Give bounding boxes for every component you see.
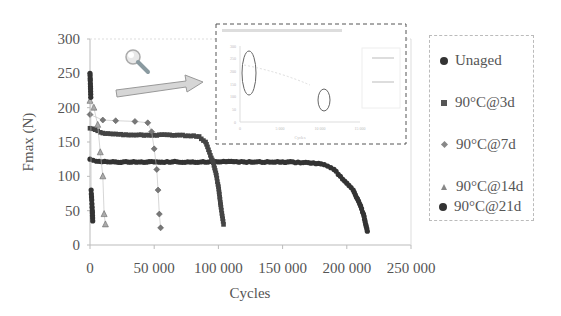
- y-tick-labels: 050100150200250300: [58, 31, 91, 253]
- x-tick-labels: 050 000100 000150 000200 000250 000: [86, 245, 435, 276]
- svg-text:100: 100: [230, 94, 236, 99]
- svg-text:50: 50: [232, 107, 236, 112]
- legend-label: 90°C@3d: [455, 94, 515, 111]
- inset-x-title: Cycles: [295, 135, 306, 140]
- magnifier-icon: [126, 50, 148, 72]
- legend: Unaged 90°C@3d 90°C@7d 90°C@14d: [429, 35, 534, 221]
- legend-item-7d: 90°C@7d: [440, 136, 516, 153]
- svg-text:0: 0: [234, 120, 236, 125]
- x-axis-title: Cycles: [230, 285, 271, 301]
- legend-item-unaged: Unaged: [440, 52, 502, 69]
- y-tick-label: 250: [58, 65, 81, 81]
- circle-marker-icon: [440, 57, 448, 65]
- legend-item-21d: 90°C@21d: [439, 198, 521, 215]
- square-marker-icon: [441, 100, 447, 106]
- triangle-marker-icon: [441, 184, 447, 190]
- legend-label: 90°C@14d: [456, 178, 523, 195]
- y-tick-label: 300: [58, 31, 81, 47]
- svg-text:250: 250: [230, 56, 236, 61]
- inset-title-text: [222, 29, 342, 32]
- svg-text:10 000: 10 000: [315, 126, 326, 131]
- svg-text:0: 0: [239, 126, 241, 131]
- svg-text:200: 200: [230, 69, 236, 74]
- x-tick-label: 100 000: [194, 260, 243, 276]
- x-tick-label: 250 000: [387, 260, 436, 276]
- legend-item-14d: 90°C@14d: [440, 178, 523, 195]
- inset-plot: 050100150200250300 05 00010 00015 000 Cy…: [216, 24, 406, 144]
- y-axis-title: Fmax (N): [20, 113, 37, 172]
- legend-item-3d: 90°C@3d: [440, 94, 515, 111]
- x-tick-label: 50 000: [134, 260, 175, 276]
- arrow-icon: [116, 75, 203, 97]
- y-tick-label: 100: [58, 168, 81, 184]
- diamond-marker-icon: [441, 141, 448, 148]
- svg-text:5 000: 5 000: [276, 126, 285, 131]
- svg-text:15 000: 15 000: [355, 126, 366, 131]
- y-tick-label: 200: [58, 100, 81, 116]
- legend-label: 90°C@7d: [456, 136, 516, 153]
- x-tick-label: 150 000: [258, 260, 307, 276]
- legend-label: Unaged: [455, 52, 502, 69]
- circle-marker-icon: [439, 203, 447, 211]
- x-tick-label: 0: [86, 260, 94, 276]
- y-tick-label: 50: [65, 203, 80, 219]
- svg-text:300: 300: [230, 44, 236, 49]
- y-tick-label: 0: [73, 237, 81, 253]
- svg-text:150: 150: [230, 82, 236, 87]
- x-tick-label: 200 000: [322, 260, 371, 276]
- y-tick-label: 150: [58, 134, 81, 150]
- legend-label: 90°C@21d: [454, 198, 521, 215]
